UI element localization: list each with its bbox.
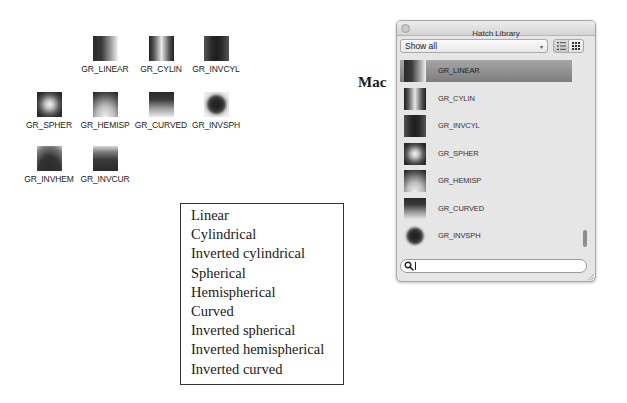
- win-icon-label: GR_HEMISP: [75, 120, 135, 130]
- chevron-down-icon: ▾: [540, 40, 543, 53]
- hatch-list-item-gr-hemisp[interactable]: GR_HEMISP: [400, 169, 586, 197]
- list-view-icon: [557, 42, 566, 50]
- win-icon-gr-spher[interactable]: GR_SPHER: [19, 92, 79, 130]
- legend-line: Curved: [191, 302, 343, 321]
- legend-line: Hemispherical: [191, 283, 343, 302]
- hatch-list-item-gr-invcyl[interactable]: GR_INVCYL: [400, 114, 586, 142]
- text-cursor: [415, 262, 416, 270]
- legend-line: Cylindrical: [191, 225, 343, 244]
- legend-line: Spherical: [191, 264, 343, 283]
- hatch-list-item-label: GR_LINEAR: [438, 59, 480, 83]
- hatch-list-item-gr-curved[interactable]: GR_CURVED: [400, 197, 586, 225]
- hatch-list-item-label: GR_HEMISP: [438, 169, 481, 193]
- legend-line: Inverted curved: [191, 360, 343, 379]
- inverted-curved-gradient-icon: [93, 146, 118, 171]
- hatch-list[interactable]: GR_LINEAR GR_CYLIN GR_INVCYL GR_SPHER GR…: [400, 59, 586, 253]
- hemispherical-gradient-icon: [93, 92, 118, 117]
- win-icon-gr-linear[interactable]: GR_LINEAR: [75, 36, 135, 74]
- win-icon-label: GR_SPHER: [19, 120, 79, 130]
- curved-gradient-icon: [404, 198, 426, 220]
- legend-line: Inverted cylindrical: [191, 244, 343, 263]
- hatch-library-window: Hatch Library Show all ▾: [396, 20, 596, 282]
- hatch-list-item-label: GR_CYLIN: [438, 87, 475, 111]
- win-icon-gr-invcur[interactable]: GR_INVCUR: [75, 146, 135, 184]
- filter-select-value: Show all: [405, 40, 437, 53]
- list-scrollbar[interactable]: [583, 230, 587, 247]
- hatch-list-item-gr-linear[interactable]: GR_LINEAR: [400, 59, 586, 87]
- win-icon-label: GR_INVCYL: [186, 64, 246, 74]
- library-toolbar: Show all ▾: [397, 36, 595, 58]
- grid-view-icon: [572, 42, 580, 50]
- win-icon-label: GR_LINEAR: [75, 64, 135, 74]
- legend-line: Inverted spherical: [191, 321, 343, 340]
- win-icon-label: GR_INVCUR: [75, 174, 135, 184]
- linear-gradient-icon: [404, 60, 426, 82]
- cylindrical-gradient-icon: [149, 36, 174, 61]
- win-icon-label: GR_INVHEM: [19, 174, 79, 184]
- win-icon-gr-hemisp[interactable]: GR_HEMISP: [75, 92, 135, 130]
- linear-gradient-icon: [93, 36, 118, 61]
- inverted-cylindrical-gradient-icon: [204, 36, 229, 61]
- inverted-hemispherical-gradient-icon: [37, 146, 62, 171]
- win-icon-gr-cylin[interactable]: GR_CYLIN: [131, 36, 191, 74]
- inverted-spherical-gradient-icon: [404, 225, 426, 247]
- close-window-button[interactable]: [401, 24, 410, 33]
- spherical-gradient-icon: [37, 92, 62, 117]
- hatch-list-item-label: GR_CURVED: [438, 197, 484, 221]
- cylindrical-gradient-icon: [404, 88, 426, 110]
- legend-line: Inverted hemispherical: [191, 340, 343, 359]
- search-icon: [404, 261, 414, 271]
- win-icon-label: GR_CURVED: [131, 120, 191, 130]
- spherical-gradient-icon: [404, 143, 426, 165]
- hatch-list-item-label: GR_INVSPH: [438, 224, 480, 248]
- win-icon-label: GR_INVSPH: [186, 120, 246, 130]
- window-titlebar[interactable]: Hatch Library: [397, 21, 595, 36]
- hatch-list-item-label: GR_INVCYL: [438, 114, 480, 138]
- win-icon-gr-invsph[interactable]: GR_INVSPH: [186, 92, 246, 130]
- inverted-cylindrical-gradient-icon: [404, 115, 426, 137]
- curved-gradient-icon: [149, 92, 174, 117]
- legend-line: Linear: [191, 206, 343, 225]
- inverted-spherical-gradient-icon: [204, 92, 229, 117]
- win-icon-gr-curved[interactable]: GR_CURVED: [131, 92, 191, 130]
- hatch-list-item-gr-cylin[interactable]: GR_CYLIN: [400, 87, 586, 115]
- windows-hatch-icon-grid: GR_LINEAR GR_CYLIN GR_INVCYL GR_SPHER GR…: [0, 0, 260, 200]
- filter-select[interactable]: Show all ▾: [400, 39, 548, 53]
- resize-grip-icon[interactable]: [588, 274, 594, 280]
- win-icon-label: GR_CYLIN: [131, 64, 191, 74]
- hatch-list-item-gr-spher[interactable]: GR_SPHER: [400, 142, 586, 170]
- platform-label: Mac: [358, 74, 386, 91]
- grid-view-button[interactable]: [568, 39, 584, 53]
- search-input[interactable]: [400, 259, 587, 273]
- gradient-type-legend: Linear Cylindrical Inverted cylindrical …: [180, 203, 344, 385]
- list-view-button[interactable]: [553, 39, 569, 53]
- hemispherical-gradient-icon: [404, 170, 426, 192]
- hatch-list-item-label: GR_SPHER: [438, 142, 478, 166]
- win-icon-gr-invhem[interactable]: GR_INVHEM: [19, 146, 79, 184]
- hatch-list-item-gr-invsph[interactable]: GR_INVSPH: [400, 224, 586, 252]
- win-icon-gr-invcyl[interactable]: GR_INVCYL: [186, 36, 246, 74]
